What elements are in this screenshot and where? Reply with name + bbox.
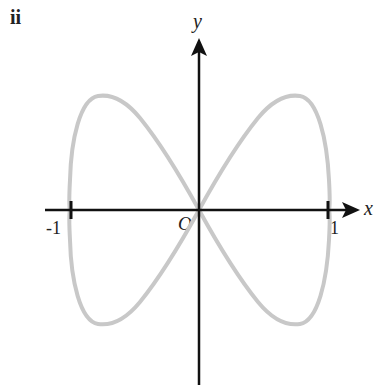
plot-canvas (0, 0, 375, 385)
